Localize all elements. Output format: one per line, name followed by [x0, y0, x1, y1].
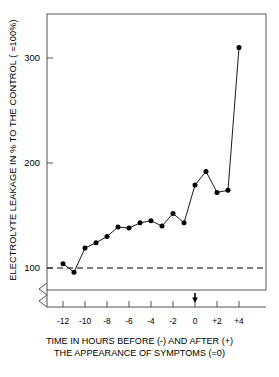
data-point — [94, 240, 99, 245]
data-point — [204, 169, 209, 174]
data-point — [83, 246, 88, 251]
plot-frame — [47, 14, 266, 290]
chart-figure: ELECTROLYTE LEAKAGE IN % TO THE CONTROL … — [0, 0, 279, 377]
plot-area — [0, 0, 279, 377]
data-point — [138, 220, 143, 225]
data-point — [149, 218, 154, 223]
data-point — [72, 270, 77, 275]
data-point — [215, 190, 220, 195]
data-point — [116, 225, 121, 230]
data-point — [127, 226, 132, 231]
data-series-electrolyte-leakage — [61, 45, 242, 275]
data-point — [160, 224, 165, 229]
x-axis-title: TIME IN HOURS BEFORE (-) AND AFTER (+) T… — [0, 336, 279, 359]
data-point — [171, 211, 176, 216]
x-axis-title-line-2: THE APPEARANCE OF SYMPTOMS (=0) — [0, 348, 279, 360]
data-point — [182, 220, 187, 225]
data-point — [226, 188, 231, 193]
y-axis-break-zigzag — [39, 283, 47, 307]
x-axis-title-line-1: TIME IN HOURS BEFORE (-) AND AFTER (+) — [0, 336, 279, 348]
data-point — [61, 261, 66, 266]
data-point — [237, 45, 242, 50]
symptom-onset-arrow — [192, 293, 198, 303]
data-point — [105, 234, 110, 239]
series-line — [63, 48, 239, 273]
data-point — [193, 183, 198, 188]
